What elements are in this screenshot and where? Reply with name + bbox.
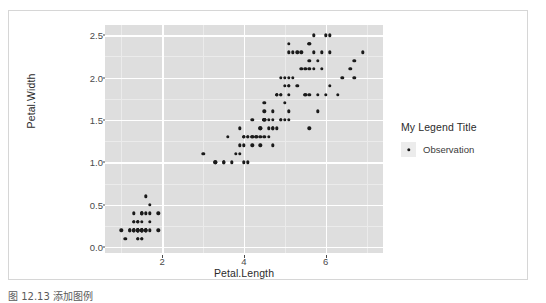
data-point — [226, 135, 229, 138]
data-point — [353, 59, 356, 62]
data-point — [144, 228, 147, 231]
data-point — [132, 220, 135, 223]
point-marker-icon — [407, 148, 410, 151]
data-point — [304, 67, 307, 70]
data-point — [140, 220, 143, 223]
data-point — [271, 110, 274, 113]
data-point — [148, 211, 151, 214]
data-point — [283, 84, 286, 87]
gridline-minor-vertical — [367, 25, 368, 253]
data-point — [287, 93, 290, 96]
x-axis-tick-label: 4 — [229, 256, 259, 267]
data-point — [271, 127, 274, 130]
data-point — [140, 237, 143, 240]
data-point — [250, 135, 253, 138]
data-point — [283, 101, 286, 104]
legend-key-swatch — [401, 142, 416, 157]
legend-item-label: Observation — [423, 144, 474, 155]
data-point — [336, 93, 339, 96]
y-axis-tick-label: 2.5 — [69, 30, 103, 41]
data-point — [156, 211, 159, 214]
y-axis-tick-label: 0.5 — [69, 199, 103, 210]
data-point — [312, 67, 315, 70]
data-point — [148, 220, 151, 223]
data-point — [287, 42, 290, 45]
gridline-major-vertical — [326, 25, 327, 253]
data-point — [316, 93, 319, 96]
data-point — [144, 211, 147, 214]
data-point — [263, 135, 266, 138]
gridline-minor-vertical — [121, 25, 122, 253]
data-point — [304, 93, 307, 96]
data-point — [295, 84, 298, 87]
y-axis-tick-label: 1.0 — [69, 157, 103, 168]
legend-title: My Legend Title — [401, 121, 521, 133]
y-axis-tick-labels: 0.00.51.01.52.02.5 — [65, 11, 103, 281]
data-point — [308, 59, 311, 62]
data-point — [124, 237, 127, 240]
y-axis-tick-label: 0.0 — [69, 242, 103, 253]
gridline-minor-vertical — [203, 25, 204, 253]
plot-panel — [105, 25, 383, 253]
data-point — [238, 152, 241, 155]
data-point — [263, 110, 266, 113]
gridline-major-vertical — [162, 25, 163, 253]
gridline-major-vertical — [244, 25, 245, 253]
x-axis-tick-label: 6 — [311, 256, 341, 267]
data-point — [144, 195, 147, 198]
data-point — [291, 50, 294, 53]
data-point — [120, 228, 123, 231]
data-point — [267, 135, 270, 138]
data-point — [246, 135, 249, 138]
data-point — [295, 50, 298, 53]
figure-caption: 图 12.13 添加图例 — [8, 288, 93, 303]
data-point — [259, 135, 262, 138]
data-point — [140, 228, 143, 231]
data-point — [349, 67, 352, 70]
plot-card: Petal.Width 0.00.51.01.52.02.5 246 Petal… — [8, 10, 528, 280]
legend-item-observation[interactable]: Observation — [401, 142, 521, 157]
x-axis-title: Petal.Length — [104, 267, 384, 279]
x-axis-tick-label: 2 — [147, 256, 177, 267]
data-point — [361, 50, 364, 53]
data-point — [136, 237, 139, 240]
data-point — [267, 127, 270, 130]
data-point — [271, 144, 274, 147]
data-point — [250, 144, 253, 147]
data-point — [287, 84, 290, 87]
data-point — [255, 135, 258, 138]
data-point — [263, 101, 266, 104]
data-point — [275, 127, 278, 130]
gridline-minor-vertical — [285, 25, 286, 253]
data-point — [320, 67, 323, 70]
ggplot-figure: Petal.Width 0.00.51.01.52.02.5 246 Petal… — [9, 11, 529, 281]
data-point — [156, 228, 159, 231]
data-point — [128, 228, 131, 231]
data-point — [259, 127, 262, 130]
data-point — [316, 110, 319, 113]
y-axis-tick-label: 2.0 — [69, 72, 103, 83]
y-axis-title: Petal.Width — [25, 41, 37, 161]
data-point — [279, 93, 282, 96]
legend: My Legend Title Observation — [401, 121, 521, 157]
data-point — [238, 127, 241, 130]
data-point — [316, 59, 319, 62]
data-point — [300, 50, 303, 53]
data-point — [140, 211, 143, 214]
data-point — [259, 144, 262, 147]
data-point — [328, 50, 331, 53]
data-point — [320, 50, 323, 53]
y-axis-tick-label: 1.5 — [69, 114, 103, 125]
data-point — [234, 152, 237, 155]
data-point — [275, 93, 278, 96]
data-point — [328, 84, 331, 87]
data-point — [238, 144, 241, 147]
data-point — [287, 50, 290, 53]
data-point — [308, 93, 311, 96]
data-point — [287, 110, 290, 113]
data-point — [136, 228, 139, 231]
data-point — [308, 42, 311, 45]
data-point — [308, 127, 311, 130]
data-point — [132, 228, 135, 231]
